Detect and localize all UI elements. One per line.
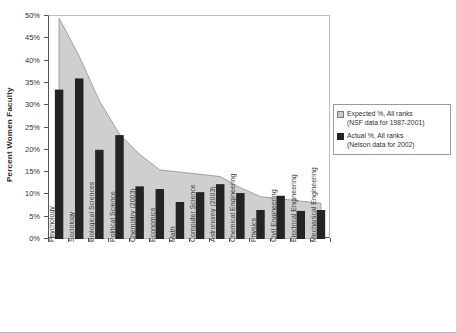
y-tick-label: 45% xyxy=(10,33,40,42)
y-tick-label: 30% xyxy=(10,100,40,109)
x-tick-label-astronomy-2003: Astronomy (2003) xyxy=(209,186,216,242)
bar-economics xyxy=(156,189,164,239)
legend-label-expected-line1: Expected %, All ranks xyxy=(347,110,413,117)
x-tick-label-economics: Economics xyxy=(149,208,156,242)
legend-label-expected-line2: (NSF data for 1987-2001) xyxy=(347,118,424,127)
x-tick-label-mechanical-engineering: Mechanical Engineering xyxy=(310,167,317,242)
y-tick-label: 50% xyxy=(10,11,40,20)
y-tick-label: 10% xyxy=(10,189,40,198)
y-tick-label: 5% xyxy=(10,212,40,221)
x-tick-label-physics: Physics xyxy=(250,218,257,242)
legend-label-actual-line2: (Nelson data for 2002) xyxy=(347,140,415,149)
actual-swatch-icon xyxy=(337,133,344,140)
y-tick-label: 0% xyxy=(10,234,40,243)
bar-biological-sciences xyxy=(95,150,103,239)
bar-civil-engineering xyxy=(276,196,284,239)
chart-frame: Percent Women Faculty 0%5%10%15%20%25%30… xyxy=(0,0,457,333)
x-tick-label-chemistry-2003: Chemistry (2003) xyxy=(129,188,136,242)
bar-math xyxy=(176,202,184,239)
y-tick-label: 40% xyxy=(10,56,40,65)
y-tick-label: 20% xyxy=(10,145,40,154)
legend-label-actual-line1: Actual %, All ranks xyxy=(347,132,403,139)
bar-astronomy-2003 xyxy=(216,184,224,239)
x-tick-label-civil-engineering: Civil Engineering xyxy=(270,189,277,242)
bar-physics xyxy=(256,210,264,239)
legend-item-expected: Expected %, All ranks (NSF data for 1987… xyxy=(337,109,446,127)
expected-swatch-icon xyxy=(337,111,344,118)
x-tick-label-math: Math xyxy=(169,226,176,242)
bar-chemistry-2003 xyxy=(135,186,143,239)
x-tick-mark xyxy=(330,238,331,242)
legend-item-actual: Actual %, All ranks (Nelson data for 200… xyxy=(337,131,446,149)
bar-electrical-engineering xyxy=(297,211,305,239)
x-tick-label-psychology: Psychology xyxy=(48,206,55,242)
y-tick-label: 35% xyxy=(10,78,40,87)
x-tick-label-computer-science: Computer Science xyxy=(189,184,196,242)
y-tick-label: 15% xyxy=(10,167,40,176)
bar-psychology xyxy=(55,90,63,239)
bar-chemical-engineering xyxy=(236,193,244,239)
x-tick-label-electrical-engineering: Electrical Engineering xyxy=(290,174,297,242)
legend-label-actual: Actual %, All ranks (Nelson data for 200… xyxy=(347,131,415,149)
bar-political-science xyxy=(115,135,123,239)
x-tick-label-sociology: Sociology xyxy=(68,212,75,242)
bar-mechanical-engineering xyxy=(317,210,325,239)
x-tick-label-chemical-engineering: Chemical Engineering xyxy=(229,174,236,242)
legend-label-expected: Expected %, All ranks (NSF data for 1987… xyxy=(347,109,424,127)
bar-sociology xyxy=(75,78,83,239)
y-tick-label: 25% xyxy=(10,123,40,132)
chart-legend: Expected %, All ranks (NSF data for 1987… xyxy=(333,104,451,155)
x-tick-label-biological-sciences: Biological Sciences xyxy=(88,182,95,242)
x-tick-label-political-science: Political Science xyxy=(109,191,116,242)
bar-computer-science xyxy=(196,192,204,239)
